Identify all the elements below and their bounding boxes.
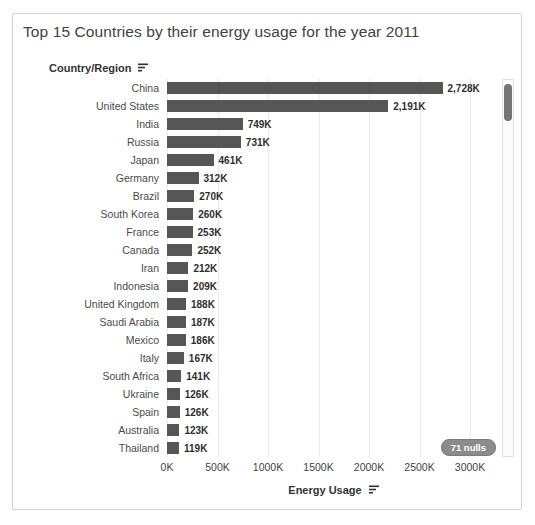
value-bar[interactable] — [167, 82, 443, 94]
value-label: 126K — [185, 407, 209, 418]
chart-row: Brazil270K — [13, 187, 501, 205]
value-label: 270K — [199, 191, 223, 202]
value-axis-label: Energy Usage — [288, 484, 361, 496]
value-bar[interactable] — [167, 208, 193, 220]
chart-row: India749K — [13, 115, 501, 133]
chart-row: China2,728K — [13, 79, 501, 97]
value-label: 212K — [193, 263, 217, 274]
country-label[interactable]: South Africa — [13, 370, 167, 382]
chart-row: United Kingdom188K — [13, 295, 501, 313]
country-label[interactable]: Iran — [13, 262, 167, 274]
value-label: 253K — [198, 227, 222, 238]
country-label[interactable]: Italy — [13, 352, 167, 364]
x-tick-label: 3000K — [455, 461, 485, 473]
country-label[interactable]: Canada — [13, 244, 167, 256]
value-bar[interactable] — [167, 190, 194, 202]
value-label: 123K — [184, 425, 208, 436]
value-bar[interactable] — [167, 244, 192, 256]
x-tick-label: 2500K — [404, 461, 434, 473]
chart-row: Russia731K — [13, 133, 501, 151]
value-bar[interactable] — [167, 388, 180, 400]
value-label: 188K — [191, 299, 215, 310]
value-axis-header[interactable]: Energy Usage — [167, 482, 501, 497]
country-label[interactable]: India — [13, 118, 167, 130]
value-bar[interactable] — [167, 406, 180, 418]
x-tick-label: 1500K — [303, 461, 333, 473]
plot-area: China2,728KUnited States2,191KIndia749KR… — [13, 79, 501, 457]
value-bar[interactable] — [167, 136, 241, 148]
value-label: 186K — [191, 335, 215, 346]
country-label[interactable]: China — [13, 82, 167, 94]
chart-row: South Korea260K — [13, 205, 501, 223]
country-label[interactable]: Indonesia — [13, 280, 167, 292]
country-label[interactable]: Japan — [13, 154, 167, 166]
value-bar[interactable] — [167, 154, 214, 166]
chart-row: Saudi Arabia187K — [13, 313, 501, 331]
value-bar[interactable] — [167, 262, 188, 274]
chart-row: Mexico186K — [13, 331, 501, 349]
chart-row: Indonesia209K — [13, 277, 501, 295]
country-label[interactable]: Spain — [13, 406, 167, 418]
chart-row: South Africa141K — [13, 367, 501, 385]
value-bar[interactable] — [167, 118, 243, 130]
value-bar[interactable] — [167, 316, 186, 328]
value-bar[interactable] — [167, 334, 186, 346]
chart-row: United States2,191K — [13, 97, 501, 115]
value-label: 731K — [246, 137, 270, 148]
value-label: 2,191K — [393, 101, 425, 112]
x-axis-ticks: 0K500K1000K1500K2000K2500K3000K — [167, 461, 501, 474]
value-bar[interactable] — [167, 280, 188, 292]
chart-row: Japan461K — [13, 151, 501, 169]
country-label[interactable]: Thailand — [13, 442, 167, 454]
country-label[interactable]: Saudi Arabia — [13, 316, 167, 328]
x-tick-label: 2000K — [354, 461, 384, 473]
value-bar[interactable] — [167, 352, 184, 364]
value-bar[interactable] — [167, 172, 199, 184]
vertical-scrollbar[interactable] — [502, 79, 514, 457]
chart-title: Top 15 Countries by their energy usage f… — [23, 23, 420, 41]
row-axis-label: Country/Region — [49, 62, 132, 74]
value-label: 2,728K — [448, 83, 480, 94]
value-bar[interactable] — [167, 100, 388, 112]
country-label[interactable]: Russia — [13, 136, 167, 148]
country-label[interactable]: Mexico — [13, 334, 167, 346]
country-label[interactable]: Germany — [13, 172, 167, 184]
country-label[interactable]: United Kingdom — [13, 298, 167, 310]
nulls-indicator-badge[interactable]: 71 nulls — [441, 439, 496, 456]
value-label: 749K — [248, 119, 272, 130]
x-tick-label: 500K — [205, 461, 230, 473]
scrollbar-thumb[interactable] — [504, 84, 512, 121]
value-label: 260K — [198, 209, 222, 220]
x-tick-label: 1000K — [253, 461, 283, 473]
country-label[interactable]: Brazil — [13, 190, 167, 202]
country-label[interactable]: Ukraine — [13, 388, 167, 400]
row-axis-header[interactable]: Country/Region — [49, 60, 149, 75]
country-label[interactable]: United States — [13, 100, 167, 112]
sort-descending-icon[interactable] — [368, 485, 380, 494]
country-label[interactable]: France — [13, 226, 167, 238]
value-label: 141K — [186, 371, 210, 382]
value-bar[interactable] — [167, 442, 179, 454]
value-bar[interactable] — [167, 370, 181, 382]
chart-row: Italy167K — [13, 349, 501, 367]
value-bar[interactable] — [167, 226, 193, 238]
value-label: 209K — [193, 281, 217, 292]
value-bar[interactable] — [167, 424, 179, 436]
chart-row: Ukraine126K — [13, 385, 501, 403]
value-label: 187K — [191, 317, 215, 328]
chart-row: France253K — [13, 223, 501, 241]
value-label: 167K — [189, 353, 213, 364]
country-label[interactable]: Australia — [13, 424, 167, 436]
chart-row: Canada252K — [13, 241, 501, 259]
value-label: 119K — [184, 443, 207, 454]
chart-row: Germany312K — [13, 169, 501, 187]
chart-row: Australia123K — [13, 421, 501, 439]
country-label[interactable]: South Korea — [13, 208, 167, 220]
value-label: 461K — [219, 155, 243, 166]
value-label: 312K — [204, 173, 228, 184]
value-label: 126K — [185, 389, 209, 400]
chart-row: Iran212K — [13, 259, 501, 277]
sort-descending-icon[interactable] — [137, 63, 149, 72]
value-bar[interactable] — [167, 298, 186, 310]
chart-row: Spain126K — [13, 403, 501, 421]
